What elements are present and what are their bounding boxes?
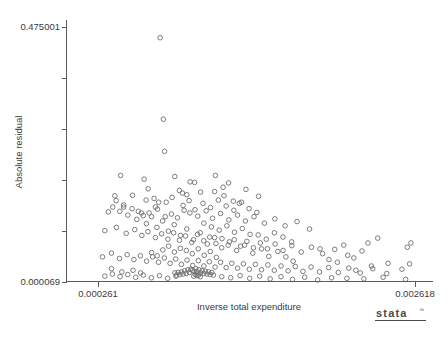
data-point xyxy=(212,189,217,194)
data-point xyxy=(178,233,183,238)
data-point xyxy=(125,272,130,277)
data-point xyxy=(195,214,200,219)
data-point xyxy=(283,224,288,229)
data-point xyxy=(208,205,213,210)
data-point xyxy=(295,219,300,224)
data-point xyxy=(235,266,240,271)
data-point xyxy=(144,221,149,226)
data-point xyxy=(281,248,286,253)
data-point xyxy=(184,227,189,232)
data-point xyxy=(209,225,214,230)
data-point xyxy=(213,173,218,178)
data-point xyxy=(164,200,169,205)
data-point xyxy=(276,249,281,254)
data-point xyxy=(120,270,125,275)
data-point xyxy=(224,204,229,209)
data-point xyxy=(266,263,271,268)
data-point xyxy=(232,237,237,242)
data-point xyxy=(228,275,233,280)
data-point xyxy=(166,244,171,249)
data-point xyxy=(309,245,314,250)
data-point xyxy=(110,205,115,210)
data-point xyxy=(318,247,323,252)
data-point xyxy=(218,260,223,265)
data-point xyxy=(235,213,240,218)
data-point xyxy=(281,235,286,240)
data-point xyxy=(170,195,175,200)
data-point xyxy=(272,268,277,273)
data-point xyxy=(118,274,123,279)
data-point xyxy=(190,251,195,256)
data-point xyxy=(253,262,258,267)
data-point xyxy=(131,268,136,273)
data-point xyxy=(184,192,189,197)
data-point xyxy=(405,245,410,250)
data-point xyxy=(262,221,267,226)
data-point xyxy=(152,196,157,201)
data-point xyxy=(341,243,346,248)
data-point xyxy=(243,219,248,224)
data-point xyxy=(268,277,273,282)
data-point xyxy=(110,272,115,277)
data-point xyxy=(201,201,206,206)
data-point xyxy=(252,214,257,219)
data-point xyxy=(156,260,161,265)
data-point xyxy=(198,190,203,195)
data-point xyxy=(153,235,158,240)
data-point xyxy=(232,230,237,235)
data-point xyxy=(177,238,182,243)
data-point xyxy=(256,233,261,238)
data-point xyxy=(163,214,168,219)
data-point xyxy=(168,261,173,266)
data-point xyxy=(114,225,119,230)
data-point xyxy=(273,217,278,222)
data-point xyxy=(347,266,352,271)
data-point xyxy=(265,247,270,252)
data-point xyxy=(336,270,341,275)
stata-logo-wordmark: stata xyxy=(376,307,408,319)
data-point xyxy=(117,256,122,261)
data-point xyxy=(149,214,154,219)
scatter-chart: 0.475001 0.000069 0.000261 0.002618 Inve… xyxy=(0,0,448,337)
y-axis-title: Absolute residual xyxy=(13,116,24,189)
data-point xyxy=(161,248,166,253)
data-point xyxy=(106,210,111,215)
data-point xyxy=(251,245,256,250)
data-point xyxy=(352,256,357,261)
data-point xyxy=(118,173,123,178)
data-point xyxy=(230,261,235,266)
data-point xyxy=(155,225,160,230)
data-point xyxy=(149,250,154,255)
data-point xyxy=(166,229,171,234)
data-point xyxy=(221,185,226,190)
data-point xyxy=(360,249,365,254)
data-point xyxy=(134,217,139,222)
data-point xyxy=(162,149,167,154)
data-point xyxy=(293,264,298,269)
data-point-group xyxy=(100,35,413,282)
data-point xyxy=(126,213,131,218)
data-point xyxy=(208,249,213,254)
data-point xyxy=(193,207,198,212)
data-point xyxy=(183,234,188,239)
data-point xyxy=(149,275,154,280)
plot-canvas: 0.475001 0.000069 0.000261 0.002618 Inve… xyxy=(0,0,448,337)
data-point xyxy=(354,268,359,273)
data-point xyxy=(146,187,151,192)
data-point xyxy=(251,251,256,256)
data-point xyxy=(326,265,331,270)
data-point xyxy=(114,198,119,203)
data-point xyxy=(227,218,232,223)
data-point xyxy=(220,236,225,241)
data-point xyxy=(224,265,229,270)
data-point xyxy=(291,259,296,264)
data-point xyxy=(144,259,149,264)
data-point xyxy=(173,174,178,179)
data-point xyxy=(124,231,129,236)
data-point xyxy=(317,270,322,275)
data-point xyxy=(130,193,135,198)
data-point xyxy=(100,255,105,260)
data-point xyxy=(259,267,264,272)
data-point xyxy=(279,274,284,279)
data-point xyxy=(156,200,161,205)
